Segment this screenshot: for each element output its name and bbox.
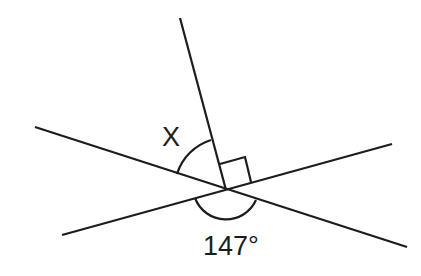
right-angle-marker — [220, 157, 251, 182]
angle-diagram: X 147° — [0, 0, 421, 276]
ray-upward — [180, 18, 226, 190]
angle-x-arc — [177, 140, 211, 174]
angle-147-arc — [195, 198, 256, 219]
line-upper-left-to-lower-right — [35, 127, 407, 247]
angle-x-label: X — [162, 122, 180, 152]
angle-147-label: 147° — [203, 231, 259, 261]
